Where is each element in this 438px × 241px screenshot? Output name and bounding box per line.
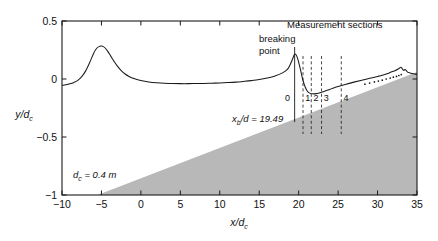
dc-value: = 0.4 m [82, 169, 117, 180]
xb-main: /d = 19.49 [240, 113, 284, 124]
x-axis-title-sub: c [244, 223, 248, 230]
aeration-dot [392, 76, 394, 78]
x-tick-label: 5 [177, 198, 183, 210]
x-axis-title: x/dc [229, 216, 248, 230]
section-label-2: 2 [313, 93, 318, 103]
y-tick-label: −0.5 [36, 131, 57, 143]
aeration-dot [369, 82, 371, 84]
aeration-dot [385, 78, 387, 80]
figure-container: 01234 −10−505101520253035 −1−0.500.5 x/d… [0, 0, 438, 241]
x-tick-label: 25 [332, 198, 344, 210]
aeration-dot [398, 75, 400, 77]
section-label-1: 1 [305, 93, 310, 103]
aeration-dot [381, 79, 383, 81]
x-tick-label: 0 [138, 198, 144, 210]
y-axis-title-sub: c [29, 115, 33, 122]
aeration-dot [374, 81, 376, 83]
y-tick-label: −1 [45, 189, 57, 201]
y-axis-title: y/dc [14, 108, 33, 122]
y-tick-label: 0 [51, 73, 57, 85]
x-tick-label: 30 [372, 198, 384, 210]
breaking-point-label-line2: point [259, 45, 280, 56]
measurement-sections-title: Measurement sections [287, 19, 383, 30]
y-axis-tick-labels: −1−0.500.5 [36, 15, 57, 201]
section-label-0: 0 [285, 93, 290, 103]
x-tick-label: 20 [293, 198, 305, 210]
breaking-point-label-line1: breaking [259, 33, 295, 44]
aeration-dot [389, 77, 391, 79]
section-label-4: 4 [343, 93, 348, 103]
aeration-dot [377, 80, 379, 82]
aeration-dot [400, 74, 402, 76]
aeration-dot [396, 76, 398, 78]
wave-flume-profile-chart: 01234 −10−505101520253035 −1−0.500.5 x/d… [0, 0, 438, 241]
x-axis-tick-labels: −10−505101520253035 [53, 198, 423, 210]
section-label-3: 3 [324, 93, 329, 103]
y-tick-label: 0.5 [42, 15, 57, 27]
aeration-dot [364, 83, 366, 85]
x-tick-label: 10 [214, 198, 226, 210]
x-tick-label: 35 [411, 198, 423, 210]
x-tick-label: 15 [253, 198, 265, 210]
x-tick-label: −5 [95, 198, 107, 210]
